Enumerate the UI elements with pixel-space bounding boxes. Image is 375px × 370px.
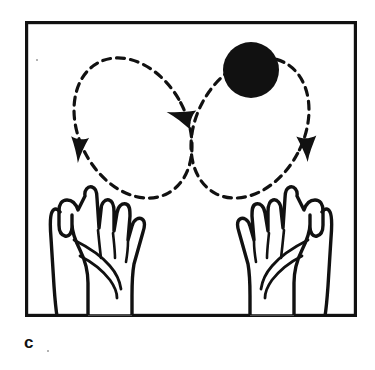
figure-panel: c (0, 0, 375, 370)
panel-border (27, 23, 356, 316)
right-hand-open-palm (238, 187, 332, 316)
print-speck-bottom (47, 350, 49, 352)
left-hand-open-palm (50, 187, 144, 316)
right-hand-outline (238, 187, 323, 316)
print-speck-top-left (36, 59, 38, 61)
left-loop-path (51, 37, 216, 218)
left-hand-outline (59, 187, 144, 316)
arrow-left-descending (69, 136, 89, 163)
juggling-diagram (0, 0, 375, 370)
juggling-ball (223, 42, 279, 98)
arrow-center-toward-left (164, 102, 197, 129)
figure-caption-label: c (24, 333, 34, 353)
